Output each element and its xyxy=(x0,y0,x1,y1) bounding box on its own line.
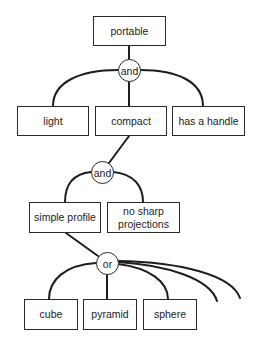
node-pyramid: pyramid xyxy=(83,299,137,330)
node-label: no sharp projections xyxy=(118,205,169,229)
gate-label: and xyxy=(121,65,139,77)
node-simple-profile: simple profile xyxy=(29,202,101,233)
gate-or: or xyxy=(96,252,119,275)
connector-lines xyxy=(0,0,261,344)
node-label: has a handle xyxy=(178,115,238,127)
gate-and-1: and xyxy=(118,59,141,82)
node-cube: cube xyxy=(24,299,78,330)
node-label: simple profile xyxy=(34,211,96,223)
node-label: compact xyxy=(111,115,151,127)
node-portable: portable xyxy=(93,16,166,46)
gate-and-2: and xyxy=(91,161,114,184)
node-label: light xyxy=(43,115,62,127)
node-label: sphere xyxy=(154,308,186,320)
node-compact: compact xyxy=(95,106,167,136)
node-label: cube xyxy=(40,308,63,320)
gate-label: or xyxy=(103,258,112,270)
node-light: light xyxy=(17,106,89,136)
node-label: pyramid xyxy=(91,308,128,320)
node-sphere: sphere xyxy=(143,299,197,330)
node-label: portable xyxy=(111,25,149,37)
node-has-a-handle: has a handle xyxy=(172,106,245,136)
gate-label: and xyxy=(94,167,112,179)
node-no-sharp-projections: no sharp projections xyxy=(107,202,180,233)
